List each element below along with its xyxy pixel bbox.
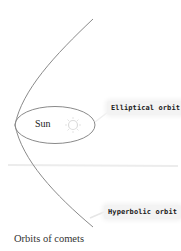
- elliptical-leader-line: [95, 112, 108, 122]
- hyperbolic-orbit-label: Hyperbolic orbit: [104, 205, 181, 219]
- hyperbolic-orbit-path: [15, 19, 93, 227]
- hyperbolic-leader-line: [90, 212, 104, 218]
- elliptical-orbit-label: Elliptical orbit: [107, 101, 181, 115]
- elliptical-orbit-path: [15, 107, 95, 144]
- sun-icon: [65, 117, 81, 133]
- sun-label: Sun: [35, 118, 51, 129]
- orbits-diagram: Sun Elliptical orbit Hyperbolic orbit Or…: [0, 0, 181, 251]
- figure-caption: Orbits of comets: [14, 233, 84, 244]
